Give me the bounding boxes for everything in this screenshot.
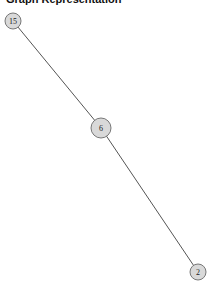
node-2[interactable]: 2 <box>190 264 206 280</box>
node-label: 2 <box>196 268 200 277</box>
node-label: 6 <box>99 124 103 133</box>
node-label: 15 <box>9 17 17 26</box>
graph-canvas: 15 6 2 <box>0 0 217 285</box>
node-15[interactable]: 15 <box>5 13 21 29</box>
node-6[interactable]: 6 <box>91 118 111 138</box>
edge-6-2 <box>101 128 198 272</box>
edge-15-6 <box>13 21 101 128</box>
